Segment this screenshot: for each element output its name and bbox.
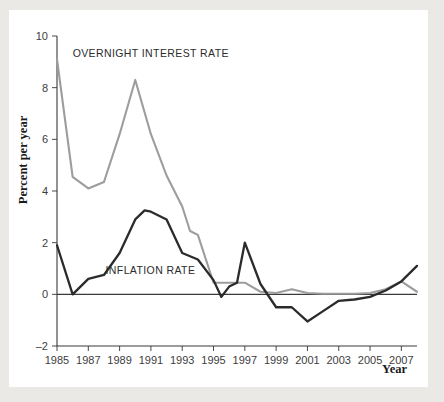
inflation-rate-label: INFLATION RATE <box>106 264 196 276</box>
x-tick-label: 1993 <box>170 354 194 366</box>
x-tick-label: 2003 <box>326 354 350 366</box>
y-tick-label: 0 <box>42 288 48 300</box>
y-axis-title: Percent per year <box>16 115 30 204</box>
x-tick-label: 1997 <box>233 354 257 366</box>
chart-panel: –202468101985198719891991199319951997199… <box>9 10 428 387</box>
y-tick-label: –2 <box>36 340 48 352</box>
figure-page: –202468101985198719891991199319951997199… <box>0 0 444 402</box>
x-tick-label: 2001 <box>295 354 319 366</box>
y-tick-label: 8 <box>42 82 48 94</box>
y-tick-label: 10 <box>36 30 48 42</box>
y-tick-label: 6 <box>42 133 48 145</box>
x-axis-title: Year <box>382 362 407 376</box>
x-tick-label: 2005 <box>358 354 382 366</box>
series-line-overnight-interest-rate <box>57 59 417 294</box>
overnight-interest-rate-label: OVERNIGHT INTEREST RATE <box>73 47 229 59</box>
axis-lines <box>57 36 417 346</box>
chart-axes <box>57 36 417 346</box>
y-tick-label: 2 <box>42 237 48 249</box>
x-tick-label: 1985 <box>45 354 69 366</box>
x-tick-label: 1999 <box>264 354 288 366</box>
x-tick-label: 1995 <box>201 354 225 366</box>
data-series <box>57 59 417 321</box>
axis-ticks: –202468101985198719891991199319951997199… <box>36 30 414 366</box>
y-tick-label: 4 <box>42 185 48 197</box>
x-tick-label: 1987 <box>76 354 100 366</box>
line-chart: –202468101985198719891991199319951997199… <box>9 10 428 387</box>
series-annotations: OVERNIGHT INTEREST RATEINFLATION RATE <box>73 47 229 276</box>
x-tick-label: 1991 <box>139 354 163 366</box>
x-tick-label: 1989 <box>107 354 131 366</box>
